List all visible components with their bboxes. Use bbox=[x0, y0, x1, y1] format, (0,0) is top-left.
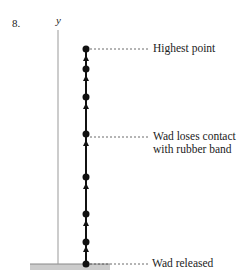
ground bbox=[30, 264, 110, 270]
label-highest-point: Highest point bbox=[153, 42, 215, 55]
label-loses-contact-2: with rubber band bbox=[153, 143, 232, 156]
label-released: Wad released bbox=[152, 257, 213, 270]
label-loses-contact-1: Wad loses contact bbox=[153, 130, 236, 143]
leader-lines bbox=[90, 49, 148, 264]
